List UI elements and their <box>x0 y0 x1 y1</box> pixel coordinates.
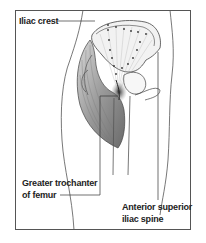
label-iliac-crest: Iliac crest <box>19 16 58 27</box>
label-asis-line2: iliac spine <box>122 214 163 225</box>
ilium <box>92 21 161 72</box>
label-asis-line1: Anterior superior <box>122 202 192 213</box>
label-greater-trochanter-line2: of femur <box>22 190 56 201</box>
body-outline-left <box>61 10 83 230</box>
label-greater-trochanter-line1: Greater trochanter <box>22 178 97 189</box>
femur-shaft-right <box>128 96 130 175</box>
body-outline-right <box>160 10 173 215</box>
